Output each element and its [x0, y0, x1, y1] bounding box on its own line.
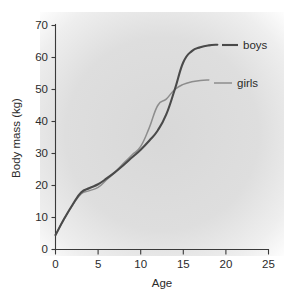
y-tick-label-70: 70 — [35, 19, 48, 31]
x-axis-title: Age — [152, 277, 172, 289]
y-axis-title: Body mass (kg) — [10, 98, 22, 178]
body-mass-vs-age-line-chart: 0 10 20 30 40 50 60 70 Body mass (kg) 0 … — [0, 0, 292, 298]
x-tick-label-0: 0 — [52, 258, 58, 270]
x-tick-label-15: 15 — [177, 258, 190, 270]
chart-figure: 0 10 20 30 40 50 60 70 Body mass (kg) 0 … — [0, 0, 292, 298]
x-tick-label-5: 5 — [95, 258, 101, 270]
x-tick-label-25: 25 — [262, 258, 275, 270]
y-tick-label-20: 20 — [35, 179, 48, 191]
y-tick-label-10: 10 — [35, 211, 48, 223]
boys-series-label: boys — [243, 39, 268, 51]
x-tick-label-20: 20 — [220, 258, 233, 270]
x-tick-label-10: 10 — [134, 258, 147, 270]
y-tick-label-40: 40 — [35, 115, 48, 127]
y-tick-label-50: 50 — [35, 83, 48, 95]
y-tick-label-0: 0 — [42, 243, 48, 255]
y-tick-label-30: 30 — [35, 147, 48, 159]
y-tick-label-60: 60 — [35, 51, 48, 63]
girls-series-label: girls — [237, 77, 258, 89]
